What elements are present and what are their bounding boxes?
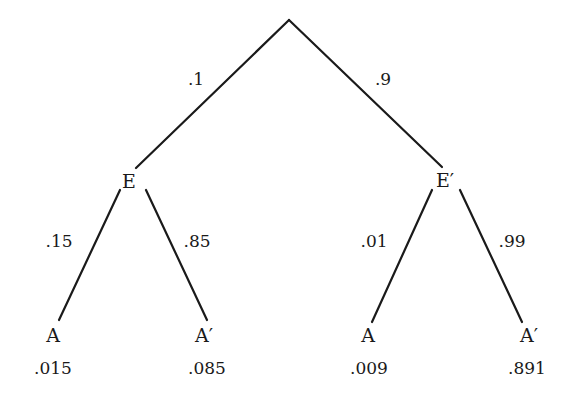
leaf-Eprime-Aprime: A′ [520, 326, 538, 345]
prob-Eprime-Aprime: .99 [498, 233, 525, 250]
edge-E-A [59, 190, 120, 320]
prob-E-A: .15 [45, 233, 72, 250]
leaf-E-Aprime: A′ [195, 326, 213, 345]
edge-Eprime-Aprime [460, 190, 522, 322]
node-E: E [122, 172, 136, 191]
edge-root-Eprime [289, 20, 442, 167]
prob-E-Aprime: .85 [183, 233, 210, 250]
prob-Eprime-A: .01 [360, 233, 387, 250]
prob-root-Eprime: .9 [375, 71, 391, 88]
edge-Eprime-A [372, 190, 432, 322]
edge-E-Aprime [146, 190, 207, 320]
prob-root-E: .1 [188, 71, 204, 88]
leaf-E-A: A [46, 326, 60, 345]
edge-root-E [136, 20, 289, 168]
joint-E-Aprime: .085 [188, 360, 226, 377]
joint-Eprime-A: .009 [350, 360, 388, 377]
joint-Eprime-Aprime: .891 [508, 360, 546, 377]
joint-E-A: .015 [34, 360, 72, 377]
leaf-Eprime-A: A [361, 326, 375, 345]
node-Eprime: E′ [436, 171, 454, 190]
tree-edges [0, 0, 565, 400]
